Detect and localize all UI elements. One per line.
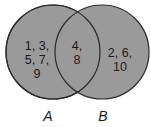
- b-only-line-1: 2, 6,: [108, 46, 132, 60]
- intersection-line-2: 8: [74, 53, 81, 67]
- set-b-circle: [55, 5, 149, 99]
- set-b-label: B: [98, 108, 107, 124]
- b-only-line-2: 10: [113, 60, 127, 74]
- a-only-line-1: 1, 3,: [25, 39, 49, 53]
- venn-diagram: 1, 3, 5, 7, 9 4, 8 2, 6, 10 A B: [0, 0, 151, 127]
- intersection-line-1: 4,: [72, 39, 82, 53]
- a-only-line-2: 5, 7,: [25, 53, 49, 67]
- a-only-line-3: 9: [34, 67, 41, 81]
- set-a-label: A: [42, 108, 52, 124]
